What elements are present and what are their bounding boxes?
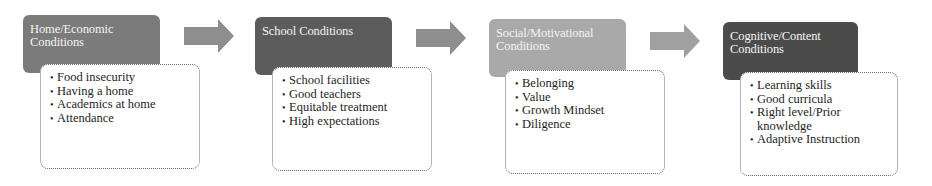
right-arrow-icon [416,21,466,55]
condition-list: Food insecurity Having a home Academics … [50,71,191,125]
list-item: Academics at home [50,98,191,112]
right-arrow-icon [184,19,234,53]
list-item: Adaptive Instruction [750,133,889,147]
list-item: Attendance [50,112,191,126]
right-arrow-icon [650,24,700,58]
list-item: Equitable treatment [282,101,423,115]
stage-content: Food insecurity Having a home Academics … [40,64,200,169]
stage-title: School Conditions [262,24,353,38]
condition-list: School facilities Good teachers Equitabl… [282,74,423,128]
stage-title: Home/Economic Conditions [30,22,113,49]
list-item: Right level/Prior knowledge [750,106,889,133]
list-item: Diligence [515,118,656,132]
list-item: Learning skills [750,79,889,93]
list-item: Having a home [50,85,191,99]
list-item: School facilities [282,74,423,88]
stage-content: Learning skills Good curricula Right lev… [740,72,898,176]
condition-list: Belonging Value Growth Mindset Diligence [515,77,656,131]
stage-title: Social/Motivational Conditions [496,26,593,53]
list-item: Belonging [515,77,656,91]
stage-content: School facilities Good teachers Equitabl… [272,67,432,171]
list-item: Growth Mindset [515,104,656,118]
list-item: Good curricula [750,93,889,107]
list-item: Good teachers [282,88,423,102]
stage-title: Cognitive/Content Conditions [730,29,821,56]
condition-list: Learning skills Good curricula Right lev… [750,79,889,147]
list-item: High expectations [282,115,423,129]
stage-header: Social/Motivational Conditions [489,19,626,77]
stage-content: Belonging Value Growth Mindset Diligence [505,70,665,174]
list-item: Food insecurity [50,71,191,85]
list-item: Value [515,91,656,105]
